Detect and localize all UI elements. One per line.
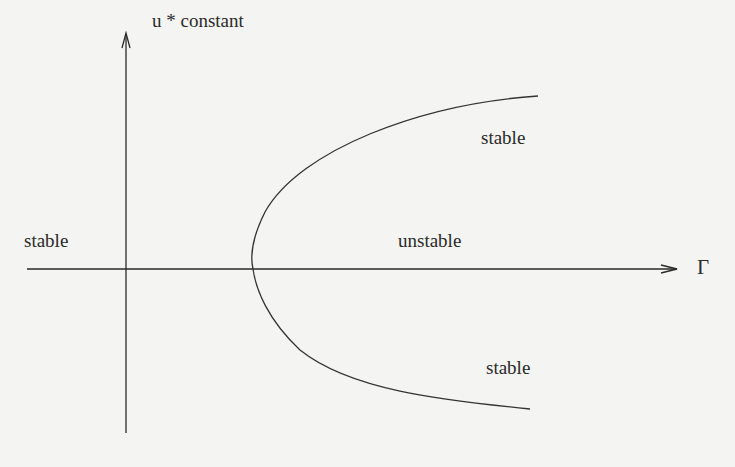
region-label-inside: unstable <box>398 231 461 250</box>
region-label-upper: stable <box>481 128 525 147</box>
region-label-left: stable <box>24 231 68 250</box>
region-label-lower: stable <box>486 358 530 377</box>
x-axis-label: Γ <box>697 257 709 278</box>
bifurcation-diagram <box>0 0 735 467</box>
y-axis-label: u * constant <box>152 11 244 30</box>
